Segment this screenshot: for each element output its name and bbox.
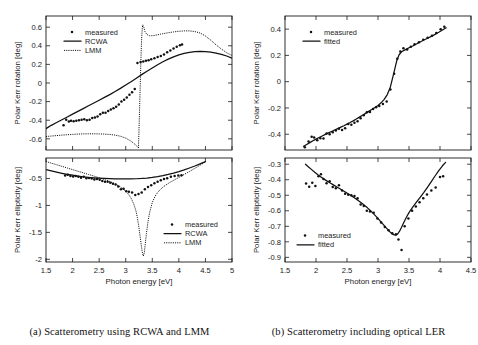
x-tick-label: 3.5 [404,266,415,275]
data-point [72,120,75,123]
data-point [376,217,379,220]
data-point [442,175,445,178]
data-point [308,185,311,188]
data-point [328,180,331,183]
data-point [99,113,102,116]
data-point [77,176,80,179]
data-point [93,178,96,181]
data-point [123,99,126,102]
y-tick-label: -0.2 [268,104,281,113]
data-point [75,175,78,178]
data-point [310,136,313,139]
y-tick-label: -0.4 [268,175,281,184]
y-tick-label: -0.3 [268,160,281,169]
data-point [128,190,131,193]
data-point [359,203,362,206]
kerr-ellipticity-rcwa-lmm: 1.522.533.544.55-2-1.5-1-0.5Polar Kerr e… [13,158,234,286]
legend-label: LMM [185,238,201,247]
data-point [435,32,438,35]
data-point [387,229,390,232]
legend-marker-points [304,234,307,237]
data-point [311,182,314,185]
data-point [380,221,383,224]
data-point [415,205,418,208]
figure-container: -0.6-0.4-0.200.20.40.6Polar Kerr rotatio… [0,0,478,345]
y-tick-label: -1.5 [29,228,42,237]
data-point [335,129,338,132]
y-tick-label: -0.4 [268,130,281,139]
x-tick-label: 1.5 [41,266,52,275]
data-point [163,53,166,56]
data-point [319,137,322,140]
x-tick-label: 2.5 [342,266,353,275]
data-point [70,119,73,122]
data-point [434,186,437,189]
y-tick-label: -0.9 [268,253,281,262]
data-point [372,108,375,111]
data-point [366,111,369,114]
data-point [418,41,421,44]
data-point [422,38,425,41]
legend-label: measured [85,28,118,37]
data-point [112,107,115,110]
data-point [389,88,392,91]
data-point [142,60,145,63]
data-point [369,111,372,114]
data-point [153,57,156,60]
data-point [385,100,388,103]
data-point [140,191,143,194]
data-point [136,62,139,65]
data-point [147,186,150,189]
data-point [104,112,107,115]
data-point [150,184,153,187]
data-point [96,178,99,181]
data-point [181,43,184,46]
data-point [83,118,86,121]
data-point [102,112,105,115]
data-point [305,182,308,185]
legend-marker-points [171,223,174,226]
data-point [410,46,413,49]
data-point [118,103,121,106]
series-measured-points [62,43,183,126]
data-point [96,115,99,118]
data-point [353,195,356,198]
x-axis-label: Photon energy [eV] [106,277,173,286]
y-tick-label: -0.8 [268,238,281,247]
data-point [98,178,101,181]
data-point [322,178,325,181]
kerr-ellipticity-ler: 1.522.533.544.5-0.9-0.8-0.7-0.6-0.5-0.4-… [252,158,476,286]
data-point [372,211,375,214]
data-point [104,180,107,183]
legend-label: LMM [85,46,101,55]
data-point [62,124,65,127]
data-point [91,117,94,120]
y-tick-label: 0 [277,77,281,86]
data-point [314,185,317,188]
data-point [126,96,129,99]
data-point [375,106,378,109]
data-point [137,193,140,196]
data-point [67,173,70,176]
x-tick-label: 3 [124,266,128,275]
subfigure-a-plots: -0.6-0.4-0.200.20.40.6Polar Kerr rotatio… [0,0,239,300]
data-point [109,182,112,185]
data-point [107,110,110,113]
kerr-rotation-rcwa-lmm: -0.6-0.4-0.200.20.40.6Polar Kerr rotatio… [13,16,232,150]
y-tick-label: 0 [38,79,42,88]
data-point [90,177,93,180]
data-point [431,34,434,37]
data-point [147,59,150,62]
y-tick-label: -0.5 [268,191,281,200]
data-point [177,174,180,177]
x-tick-label: 4 [177,266,181,275]
data-point [356,120,359,123]
data-point [341,189,344,192]
x-tick-label: 1.5 [280,266,291,275]
data-point [344,127,347,130]
data-point [169,49,172,52]
data-point [101,180,104,183]
y-tick-label: -1 [35,201,42,210]
data-point [320,173,323,176]
data-point [317,175,320,178]
